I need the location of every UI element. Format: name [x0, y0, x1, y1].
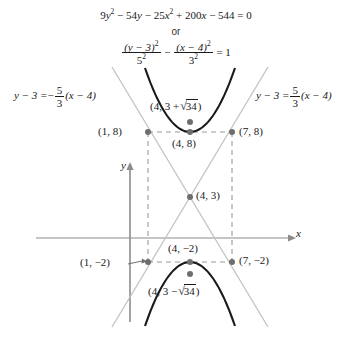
focus-top-dot — [187, 119, 193, 125]
label-vertex-top: (4, 8) — [172, 138, 196, 150]
center-dot — [187, 194, 193, 200]
corner-bottom-left-leader — [128, 258, 147, 264]
equation-general-form: 9y2 − 54y − 25x2 + 200x − 544 = 0 — [0, 8, 352, 21]
asymptote-label-left: y − 3 =− 5 3 (x − 4) — [14, 84, 96, 109]
x-axis-arrowhead — [288, 234, 296, 241]
equation-standard-form: (y − 3)2 52 − (x − 4)2 32 = 1 — [0, 40, 352, 67]
fraction-y-term: (y − 3)2 52 — [122, 40, 160, 67]
vertex-top-dot — [187, 129, 193, 135]
label-corner-bottom-left: (1, −2) — [80, 257, 110, 269]
corner-bottom-right-dot — [229, 259, 235, 265]
label-corner-top-right: (7, 8) — [239, 126, 263, 138]
x-axis-label: x — [296, 228, 301, 240]
label-focus-top: (4, 3 +√34) — [150, 100, 201, 113]
focus-bottom-dot — [187, 271, 193, 277]
label-center: (4, 3) — [196, 190, 220, 202]
slope-fraction-left: 5 3 — [55, 84, 65, 109]
standard-equals: = 1 — [216, 46, 230, 58]
y-axis-arrowhead — [126, 162, 133, 170]
y-axis-label: y — [121, 160, 126, 172]
standard-operator: − — [164, 46, 170, 58]
label-corner-top-left: (1, 8) — [98, 126, 122, 138]
label-vertex-bottom: (4, −2) — [168, 243, 198, 255]
label-focus-bottom: (4, 3 −√34) — [148, 285, 199, 298]
vertex-bottom-dot — [187, 259, 193, 265]
fraction-x-term: (x − 4)2 32 — [174, 40, 212, 67]
corner-bottom-left-dot — [145, 259, 151, 265]
label-corner-bottom-right: (7, −2) — [239, 255, 269, 267]
corner-top-right-dot — [229, 129, 235, 135]
axes-group — [36, 162, 296, 322]
slope-fraction-right: 5 3 — [290, 84, 300, 109]
radical-top: √34 — [179, 100, 198, 113]
asymptote-label-right: y − 3 = 5 3 (x − 4) — [256, 84, 332, 109]
equation-connector: or — [0, 26, 352, 37]
radical-bottom: √34 — [177, 285, 196, 298]
corner-top-left-dot — [145, 129, 151, 135]
figure-canvas: 9y2 − 54y − 25x2 + 200x − 544 = 0 or (y … — [0, 0, 352, 347]
